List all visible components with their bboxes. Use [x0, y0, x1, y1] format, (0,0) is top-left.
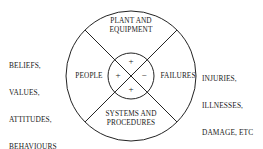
polarity-sign-top: +: [125, 57, 137, 66]
polarity-sign-right: −: [138, 71, 150, 80]
left-context-line-1: BELIEFS,: [9, 61, 67, 70]
quadrant-label-people: PEOPLE: [66, 72, 112, 81]
left-context-line-3: ATTITUDES,: [9, 115, 67, 124]
right-outcome-line-1: INJURIES,: [202, 74, 262, 83]
left-context-line-4: BEHAVIOURS: [9, 142, 67, 149]
right-outcome-text: INJURIES, ILLNESSES, DAMAGE, ETC: [202, 56, 262, 149]
left-context-line-2: VALUES,: [9, 88, 67, 97]
right-outcome-line-2: ILLNESSES,: [202, 101, 262, 110]
polarity-sign-left: +: [112, 71, 124, 80]
quadrant-label-systems-and-procedures: SYSTEMS AND PROCEDURES: [86, 110, 176, 128]
quadrant-label-failures: FAILURES: [155, 72, 201, 81]
polarity-sign-bottom: +: [125, 85, 137, 94]
circular-quadrant-diagram: BELIEFS, VALUES, ATTITUDES, BEHAVIOURS (…: [0, 0, 263, 149]
right-outcome-line-3: DAMAGE, ETC: [202, 128, 262, 137]
left-context-text: BELIEFS, VALUES, ATTITUDES, BEHAVIOURS (…: [9, 43, 67, 149]
quadrant-label-plant-and-equipment: PLANT AND EQUIPMENT: [86, 17, 176, 35]
